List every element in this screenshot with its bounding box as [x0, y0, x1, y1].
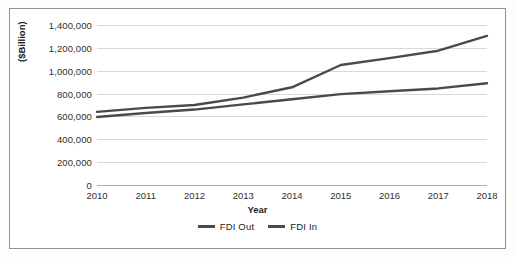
x-axis-tick: 2011	[136, 190, 156, 201]
legend-item-fdi-in[interactable]: FDI In	[268, 221, 317, 232]
x-axis-tick: 2015	[330, 190, 351, 201]
x-axis-title: Year	[0, 204, 515, 215]
x-axis-tick: 2014	[281, 190, 302, 201]
chart-figure: 1,400,0001,200,0001,000,000800,000600,00…	[0, 0, 515, 258]
legend-label: FDI In	[290, 221, 317, 232]
line-swatch-icon	[268, 225, 285, 227]
x-axis-tick: 2017	[428, 190, 449, 201]
chart-legend: FDI OutFDI In	[0, 221, 515, 232]
y-axis-tick: 1,400,000	[0, 20, 92, 31]
plot-area	[97, 25, 487, 185]
x-axis-tick: 2018	[476, 190, 497, 201]
line-swatch-icon	[198, 225, 215, 227]
y-axis-tick-labels: 1,400,0001,200,0001,000,000800,000600,00…	[0, 0, 92, 258]
y-axis-title: ($Billion)	[16, 21, 27, 62]
y-axis-tick: 1,000,000	[0, 65, 92, 76]
y-axis-tick: 800,000	[0, 88, 92, 99]
y-axis-tick: 0	[0, 180, 92, 191]
x-axis-tick: 2013	[233, 190, 254, 201]
x-axis-tick: 2012	[184, 190, 205, 201]
y-axis-tick: 600,000	[0, 111, 92, 122]
axis-baseline	[97, 185, 487, 186]
y-axis-tick: 200,000	[0, 157, 92, 168]
x-axis-tick: 2010	[86, 190, 107, 201]
x-axis-tick: 2016	[379, 190, 400, 201]
y-axis-tick: 400,000	[0, 134, 92, 145]
chart-series-canvas	[97, 25, 487, 185]
legend-label: FDI Out	[220, 221, 255, 232]
legend-item-fdi-out[interactable]: FDI Out	[198, 221, 255, 232]
y-axis-tick: 1,200,000	[0, 42, 92, 53]
